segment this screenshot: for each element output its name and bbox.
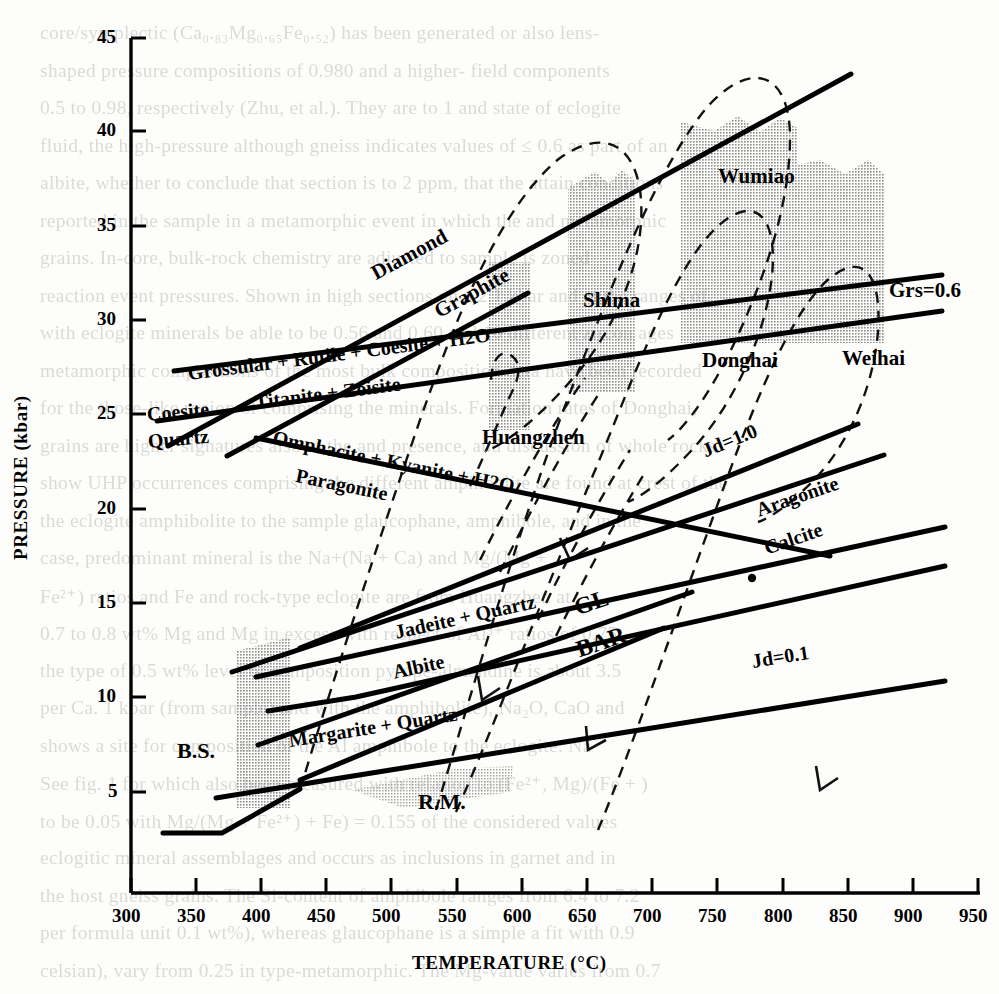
label-wumiao: Wumiao	[718, 164, 795, 189]
label-grs-0-6: Grs=0.6	[889, 278, 961, 303]
label-weihai: Weihai	[842, 346, 905, 371]
label-bs: B.S.	[177, 738, 215, 764]
y-tick-35: 35	[97, 214, 116, 236]
x-tick-650: 650	[568, 905, 597, 927]
x-tick-700: 700	[633, 905, 662, 927]
x-tick-500: 500	[372, 905, 401, 927]
x-tick-300: 300	[112, 905, 141, 927]
y-tick-15: 15	[97, 591, 116, 613]
x-tick-800: 800	[764, 905, 793, 927]
data-point-marker	[748, 574, 756, 582]
pt-phase-diagram	[0, 0, 999, 994]
x-tick-600: 600	[503, 905, 532, 927]
x-tick-900: 900	[894, 905, 923, 927]
y-tick-5: 5	[108, 780, 118, 802]
x-axis-title: TEMPERATURE (°C)	[412, 952, 607, 974]
label-donghai: Donghai	[702, 348, 778, 373]
label-shima: Shima	[583, 288, 640, 313]
band-wumiao	[681, 116, 798, 343]
x-tick-450: 450	[307, 905, 336, 927]
x-tick-950: 950	[959, 905, 988, 927]
label-huangzhen: Huangzhen	[482, 425, 585, 450]
x-tick-350: 350	[177, 905, 206, 927]
x-tick-750: 750	[698, 905, 727, 927]
y-tick-45: 45	[97, 26, 116, 48]
x-tick-550: 550	[438, 905, 467, 927]
y-tick-30: 30	[97, 308, 116, 330]
band-weihai	[798, 160, 885, 343]
x-tick-400: 400	[242, 905, 271, 927]
x-tick-850: 850	[829, 905, 858, 927]
y-tick-20: 20	[97, 497, 116, 519]
y-tick-10: 10	[97, 685, 116, 707]
y-tick-25: 25	[97, 402, 116, 424]
y-tick-40: 40	[97, 119, 116, 141]
arrowhead-3	[816, 766, 838, 790]
y-axis-title: PRESSURE (kbar)	[10, 395, 32, 560]
label-rm: R.M.	[418, 789, 466, 815]
